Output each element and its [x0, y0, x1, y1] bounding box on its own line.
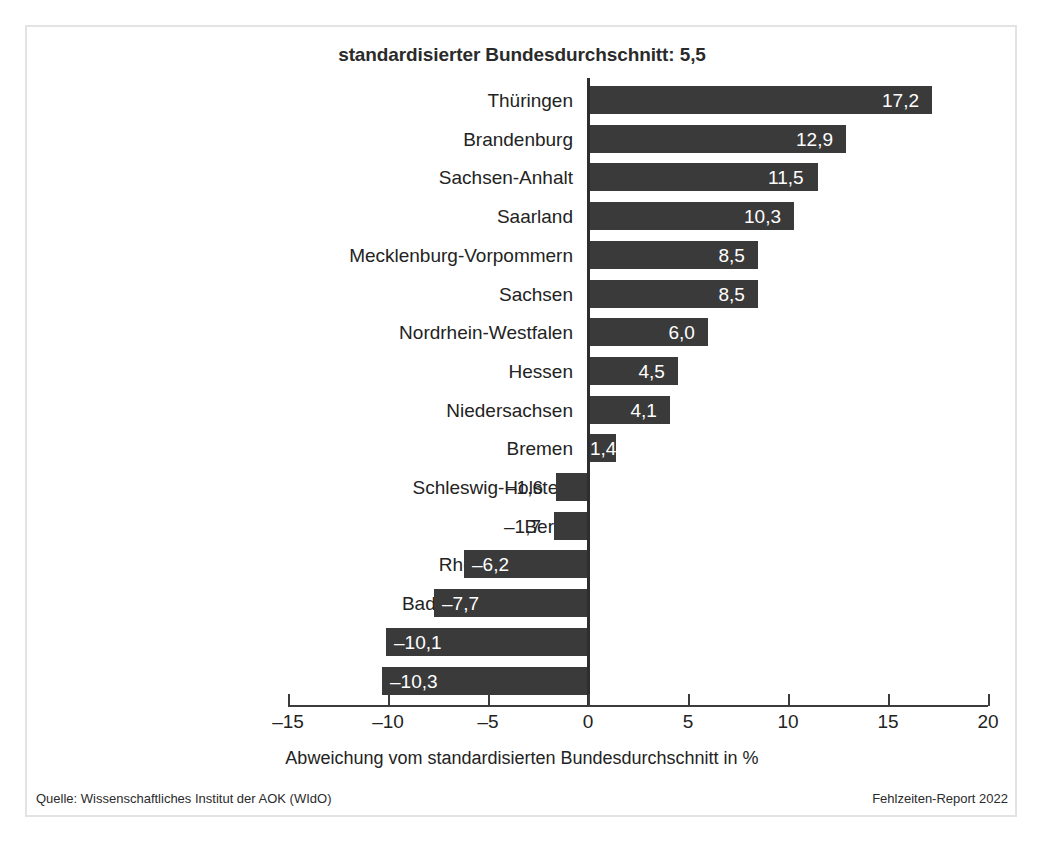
source-note: Quelle: Wissenschaftliches Institut der …: [36, 791, 332, 806]
x-tick: [588, 694, 590, 706]
value-label: –6,2: [472, 555, 509, 574]
x-tick-label: 15: [858, 712, 918, 733]
value-label: –10,1: [394, 633, 442, 652]
bar-row: Saarland10,3: [0, 202, 1044, 230]
value-label: 17,2: [882, 91, 919, 110]
category-label: Thüringen: [487, 91, 573, 110]
x-tick: [788, 694, 790, 706]
bar-row: Schleswig-Holstein–1,6: [0, 473, 1044, 501]
bar-row: Hessen4,5: [0, 357, 1044, 385]
bar-row: Hamburg–10,1: [0, 628, 1044, 656]
x-axis-line: [288, 705, 988, 707]
x-tick-label: 10: [758, 712, 818, 733]
report-note: Fehlzeiten-Report 2022: [872, 791, 1008, 806]
bar-row: Brandenburg12,9: [0, 125, 1044, 153]
value-label: –7,7: [442, 594, 479, 613]
value-label: –1,6: [506, 478, 543, 497]
bar: [588, 396, 670, 424]
value-label: –1,7: [504, 517, 541, 536]
value-label: 12,9: [796, 130, 833, 149]
value-label: 1,4: [590, 439, 616, 458]
category-label: Sachsen-Anhalt: [439, 168, 573, 187]
x-tick: [488, 694, 490, 706]
bar: [554, 512, 588, 540]
bar-row: Bayern–10,3: [0, 667, 1044, 695]
bar: [588, 86, 932, 114]
category-label: Schleswig-Holstein: [412, 478, 573, 497]
bar-row: Baden-Württemberg–7,7: [0, 589, 1044, 617]
category-label: Nordrhein-Westfalen: [399, 323, 573, 342]
bar-row: Berlin–1,7: [0, 512, 1044, 540]
category-label: Saarland: [497, 207, 573, 226]
x-axis-label: Abweichung vom standardisierten Bundesdu…: [0, 748, 1044, 769]
x-tick: [688, 694, 690, 706]
category-label: Hessen: [509, 362, 573, 381]
x-tick: [388, 694, 390, 706]
category-label: Niedersachsen: [446, 401, 573, 420]
bar-row: Niedersachsen4,1: [0, 396, 1044, 424]
value-label: 8,5: [719, 285, 745, 304]
category-label: Bremen: [506, 439, 573, 458]
bar-row: Thüringen17,2: [0, 86, 1044, 114]
bar-row: Bremen1,4: [0, 434, 1044, 462]
figure: standardisierter Bundesdurchschnitt: 5,5…: [0, 0, 1044, 849]
bar-row: Nordrhein-Westfalen6,0: [0, 318, 1044, 346]
bar-row: Rheinland-Pfalz–6,2: [0, 550, 1044, 578]
category-label: Brandenburg: [463, 130, 573, 149]
value-label: 10,3: [744, 207, 781, 226]
bar-row: Mecklenburg-Vorpommern8,5: [0, 241, 1044, 269]
value-label: 8,5: [719, 246, 745, 265]
zero-axis-line: [587, 78, 590, 706]
value-label: 4,5: [639, 362, 665, 381]
x-tick-label: –15: [258, 712, 318, 733]
category-label: Sachsen: [499, 285, 573, 304]
bar-row: Sachsen8,5: [0, 280, 1044, 308]
bar-row: Sachsen-Anhalt11,5: [0, 163, 1044, 191]
value-label: 6,0: [669, 323, 695, 342]
x-tick: [288, 694, 290, 706]
x-tick: [988, 694, 990, 706]
x-tick: [888, 694, 890, 706]
bar: [556, 473, 588, 501]
x-tick-label: 0: [558, 712, 618, 733]
value-label: 11,5: [768, 168, 804, 187]
category-label: Mecklenburg-Vorpommern: [349, 246, 573, 265]
x-tick-label: –10: [358, 712, 418, 733]
value-label: 4,1: [631, 401, 657, 420]
value-label: –10,3: [390, 672, 438, 691]
x-tick-label: –5: [458, 712, 518, 733]
x-tick-label: 5: [658, 712, 718, 733]
x-tick-label: 20: [958, 712, 1018, 733]
